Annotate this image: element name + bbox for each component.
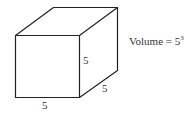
cube-front-face: [16, 36, 80, 98]
formula-prefix: Volume =: [129, 35, 175, 47]
volume-formula: Volume = 53: [129, 35, 184, 47]
edge-label-width: 5: [42, 100, 48, 111]
formula-exponent: 3: [180, 34, 184, 42]
cube-top-face: [16, 8, 118, 36]
edge-label-depth: 5: [102, 83, 108, 94]
cube-drawing: [0, 0, 196, 114]
edge-label-height: 5: [83, 55, 89, 66]
